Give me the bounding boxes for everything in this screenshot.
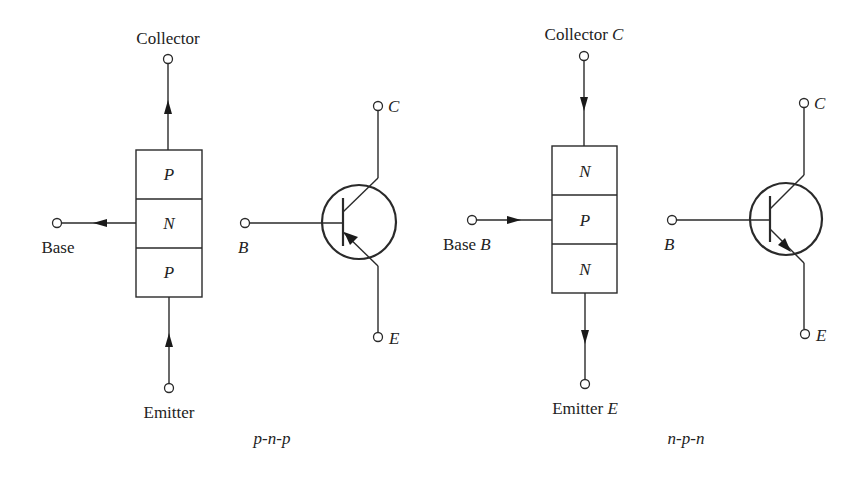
pnp-layer-bottom: P xyxy=(163,263,174,282)
npn-collector-terminal xyxy=(580,52,589,61)
npn-layer-middle: P xyxy=(579,211,590,230)
npn-symbol-collector-terminal xyxy=(800,99,809,108)
pnp-collector-label: Collector xyxy=(136,29,200,48)
pnp-emitter-terminal xyxy=(165,384,174,393)
pnp-caption: p-n-p xyxy=(253,429,291,448)
pnp-symbol-emitter-label: E xyxy=(388,329,400,348)
npn-emitter-current-arrow-icon xyxy=(581,330,589,344)
npn-symbol-emitter-terminal xyxy=(801,330,810,339)
npn-caption: n-p-n xyxy=(668,429,705,448)
npn-layer-bottom: N xyxy=(578,260,592,279)
npn-transistor-symbol: C B E xyxy=(664,94,827,345)
pnp-layer-middle: N xyxy=(162,214,176,233)
pnp-symbol-base-label: B xyxy=(238,238,249,257)
pnp-symbol-emitter-arrow-icon xyxy=(344,232,358,245)
npn-emitter-label: Emitter E xyxy=(552,399,618,418)
npn-collector-current-arrow-icon xyxy=(580,97,588,111)
pnp-emitter-label: Emitter xyxy=(144,403,195,422)
npn-block-diagram: Collector C N P N Base B Emitter E xyxy=(443,25,624,418)
pnp-symbol-base-terminal xyxy=(241,219,250,228)
transistor-diagram: Collector P N P Base Emitter C B E xyxy=(0,0,868,477)
pnp-symbol-collector-terminal xyxy=(374,102,383,111)
npn-base-label: Base B xyxy=(443,235,491,254)
pnp-base-label: Base xyxy=(41,238,74,257)
pnp-symbol-emitter-terminal xyxy=(374,333,383,342)
npn-symbol-collector-label: C xyxy=(814,94,826,113)
npn-symbol-base-label: B xyxy=(664,235,675,254)
pnp-emitter-current-arrow-icon xyxy=(165,333,173,347)
npn-base-terminal xyxy=(468,216,477,225)
npn-collector-label: Collector C xyxy=(545,25,625,44)
npn-symbol-collector-diagonal xyxy=(770,175,804,209)
pnp-base-terminal xyxy=(53,219,62,228)
pnp-layer-top: P xyxy=(163,165,174,184)
npn-layer-top: N xyxy=(578,162,592,181)
npn-symbol-emitter-arrow-icon xyxy=(778,238,791,252)
npn-emitter-terminal xyxy=(581,380,590,389)
pnp-base-current-arrow-icon xyxy=(93,219,107,227)
pnp-collector-terminal xyxy=(164,55,173,64)
pnp-symbol-collector-label: C xyxy=(388,97,400,116)
pnp-block-diagram: Collector P N P Base Emitter xyxy=(41,29,202,422)
npn-symbol-base-terminal xyxy=(668,216,677,225)
pnp-collector-current-arrow-icon xyxy=(164,100,172,114)
pnp-symbol-collector-diagonal xyxy=(343,178,378,212)
pnp-transistor-symbol: C B E xyxy=(238,97,400,348)
npn-symbol-emitter-label: E xyxy=(815,326,827,345)
npn-base-current-arrow-icon xyxy=(507,216,521,224)
